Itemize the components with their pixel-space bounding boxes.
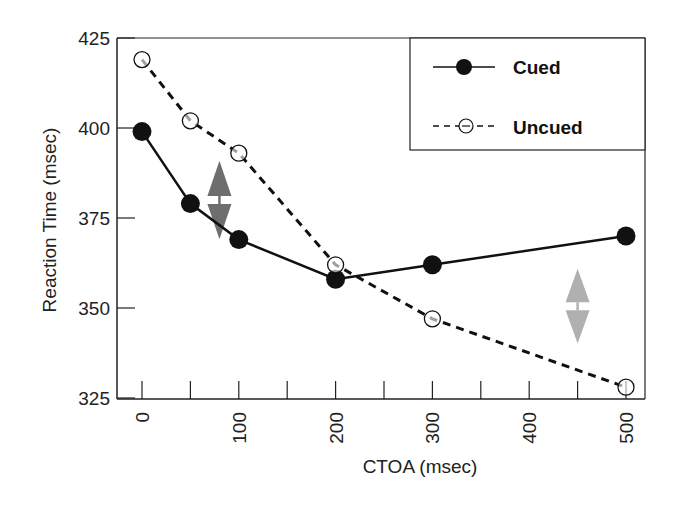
cued-point-icon [617,227,636,246]
uncued-point-icon [328,257,344,273]
cued-point-icon [423,255,442,274]
y-tick-label: 350 [78,298,110,319]
x-tick-label: 200 [326,412,347,444]
x-tick-label: 300 [422,412,443,444]
cued-point-icon [229,230,248,249]
y-tick-label: 400 [78,118,110,139]
y-tick-label: 425 [78,28,110,49]
uncued-point-icon [134,52,150,68]
annotation-arrows [207,161,589,344]
cued-point-icon [133,122,152,141]
legend-cued-marker-icon [456,59,472,75]
cued-point-icon [181,194,200,213]
x-axis-ticks: 0100200300400500 [132,381,637,444]
x-axis-title: CTOA (msec) [363,456,478,477]
y-tick-label: 325 [78,388,110,409]
legend-uncued-label: Uncued [513,117,583,138]
uncued-point-icon [424,311,440,327]
chart: 325350375400425 0100200300400500 Cued Un… [0,0,678,509]
y-axis-ticks: 325350375400425 [78,28,135,409]
x-tick-label: 0 [132,412,153,423]
x-tick-label: 400 [519,412,540,444]
uncued-point-icon [182,113,198,129]
x-tick-label: 500 [616,412,637,444]
y-axis-title: Reaction Time (msec) [39,128,60,313]
uncued-point-icon [231,145,247,161]
legend-cued-label: Cued [513,57,561,78]
double-arrow-icon [566,269,590,344]
y-tick-label: 375 [78,208,110,229]
uncued-point-icon [618,379,634,395]
legend: Cued Uncued [410,38,645,150]
x-tick-label: 100 [229,412,250,444]
double-arrow-icon [207,161,231,239]
